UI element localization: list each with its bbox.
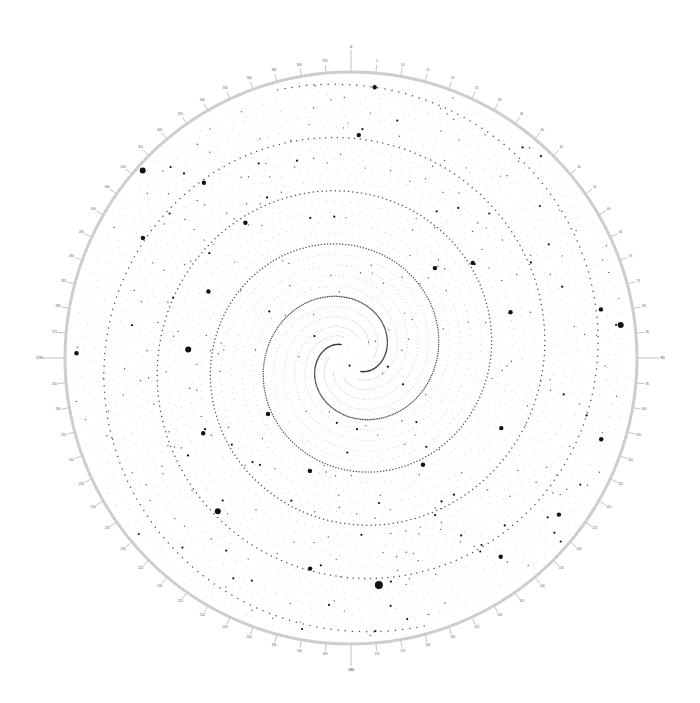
field-point — [353, 489, 354, 490]
field-point — [190, 196, 191, 197]
field-point — [479, 558, 480, 559]
arm-point — [289, 288, 290, 289]
field-point — [403, 195, 404, 196]
field-point — [228, 293, 229, 294]
arm-point — [324, 367, 325, 368]
field-point — [292, 257, 293, 258]
arm-point — [370, 409, 371, 410]
field-point — [432, 609, 433, 610]
field-point — [104, 253, 105, 254]
field-point — [308, 124, 309, 125]
arm-point — [355, 267, 356, 268]
field-point — [569, 274, 570, 275]
arm-point — [375, 418, 377, 420]
field-point — [594, 414, 595, 415]
field-point — [320, 242, 321, 243]
field-point — [382, 441, 383, 442]
field-point — [302, 489, 303, 490]
field-point — [317, 578, 318, 579]
arm-point — [235, 609, 236, 610]
arm-point — [297, 357, 298, 358]
field-point — [264, 394, 265, 395]
arm-point — [157, 190, 158, 191]
field-point — [608, 263, 609, 264]
field-point — [489, 317, 490, 318]
field-point — [233, 147, 234, 148]
field-point — [367, 277, 368, 278]
field-point — [526, 386, 527, 387]
arm-point — [104, 391, 106, 393]
arm-point — [266, 216, 267, 217]
field-point — [470, 479, 471, 480]
field-point — [173, 336, 174, 337]
field-point — [446, 536, 447, 537]
field-point — [508, 555, 509, 556]
field-point — [599, 394, 600, 395]
arm-point — [430, 282, 431, 283]
field-point — [391, 218, 392, 219]
field-point — [120, 410, 121, 411]
major-tick — [61, 307, 67, 308]
field-point — [249, 127, 250, 128]
arm-point — [423, 445, 424, 446]
arm-point — [143, 510, 145, 512]
arm-point — [498, 509, 499, 510]
field-point — [117, 303, 118, 304]
tick-label: 40 — [541, 128, 545, 132]
arm-point — [83, 390, 84, 391]
arm-point — [558, 251, 559, 252]
field-point — [341, 320, 342, 321]
field-point — [238, 461, 239, 462]
field-point — [197, 200, 198, 201]
field-point — [465, 278, 466, 279]
arm-point — [307, 357, 308, 358]
field-point — [177, 331, 178, 332]
field-point — [282, 302, 283, 303]
field-point — [304, 612, 305, 613]
field-point — [582, 511, 583, 512]
arm-point — [421, 287, 423, 289]
field-point — [567, 348, 568, 349]
major-tick — [449, 82, 451, 88]
field-point — [497, 355, 498, 356]
arm-point — [533, 172, 535, 174]
field-point — [443, 207, 444, 208]
arm-point — [564, 216, 566, 218]
field-point — [91, 459, 92, 460]
field-point — [428, 603, 429, 604]
field-point — [250, 110, 251, 111]
field-point — [356, 590, 357, 591]
field-point — [546, 544, 547, 545]
arm-point — [318, 409, 319, 410]
field-point — [179, 413, 180, 414]
arm-point — [477, 369, 478, 370]
field-point — [494, 554, 495, 555]
arm-point — [254, 395, 255, 396]
field-point — [226, 206, 227, 207]
field-point — [350, 527, 351, 528]
arm-point — [441, 246, 442, 247]
arm-point — [343, 159, 344, 160]
arm-point — [344, 379, 345, 380]
arm-point — [393, 287, 394, 288]
arm-point — [210, 319, 211, 320]
field-point — [248, 374, 249, 375]
field-point — [614, 333, 615, 334]
field-point — [288, 263, 289, 264]
arm-point — [236, 294, 238, 296]
field-point — [142, 453, 143, 454]
field-point — [114, 464, 115, 465]
arm-point — [437, 355, 439, 357]
field-point — [500, 286, 501, 287]
field-point — [385, 196, 386, 197]
field-point — [393, 526, 394, 527]
field-point — [522, 410, 523, 411]
arm-point — [244, 283, 246, 285]
arm-point — [416, 460, 418, 462]
field-point — [224, 131, 225, 132]
arm-point — [606, 303, 607, 304]
arm-point — [459, 354, 460, 355]
field-point — [212, 209, 213, 210]
arm-point — [408, 498, 409, 499]
arm-point — [347, 234, 348, 235]
